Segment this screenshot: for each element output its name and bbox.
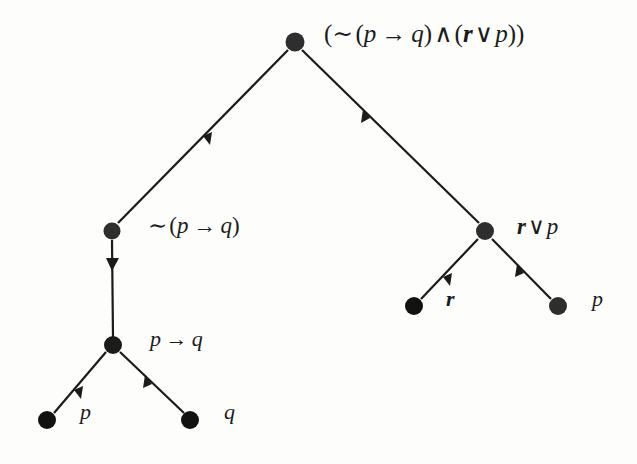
edge-root-to-disjunction [302, 50, 479, 223]
paren-close-outer: ) [516, 20, 524, 47]
label-root-formula: (∼ (p → q) ∧ (r ∨ p)) [324, 21, 524, 46]
atom-q-consequent: q [411, 20, 424, 47]
node-leaf-r[interactable] [405, 297, 423, 315]
edge-implication-to-leaf-q [120, 352, 184, 413]
label-not-implication: ∼ (p → q) [148, 214, 240, 237]
paren-open-implication: ( [355, 20, 363, 47]
paren-open-disjunction: ( [455, 20, 463, 47]
atom-p: p [177, 213, 189, 238]
label-disjunction: r ∨ p [517, 215, 558, 238]
node-leaf-p-left[interactable] [38, 411, 56, 429]
label-leaf-r: r [446, 288, 455, 310]
negation-operator: ∼ [332, 20, 353, 47]
atom-q: q [221, 213, 233, 238]
atom-p: p [150, 326, 161, 351]
node-not-implication[interactable] [104, 223, 121, 240]
label-leaf-p-left: p [80, 401, 91, 423]
paren-open: ( [169, 213, 177, 238]
disjunction-operator: ∨ [528, 214, 545, 239]
node-leaf-p-right[interactable] [549, 297, 567, 315]
negation-operator: ∼ [148, 213, 167, 238]
atom-p: p [547, 214, 559, 239]
label-leaf-q: q [224, 401, 235, 423]
paren-close: ) [232, 213, 240, 238]
label-leaf-p-right: p [592, 288, 603, 310]
implication-operator: → [381, 20, 406, 47]
parse-tree-figure: (∼ (p → q) ∧ (r ∨ p)) ∼ (p → q) r ∨ p p … [0, 0, 637, 464]
edge-root-to-not-implication [118, 50, 288, 223]
node-disjunction[interactable] [476, 222, 494, 240]
node-group [38, 33, 567, 430]
atom-q: q [192, 326, 203, 351]
atom-r: r [517, 214, 526, 239]
label-implication: p → q [150, 328, 203, 350]
atom-r: r [463, 20, 473, 47]
disjunction-operator: ∨ [475, 20, 493, 47]
atom-p-disjunct: p [495, 20, 508, 47]
arrowhead-not-implication-to-implication [106, 258, 119, 271]
implication-operator: → [165, 326, 187, 351]
node-implication[interactable] [104, 336, 122, 354]
edge-not-implication-to-implication [112, 240, 113, 337]
paren-close-disjunction: ) [508, 20, 516, 47]
paren-close-implication: ) [424, 20, 432, 47]
node-leaf-q[interactable] [181, 411, 199, 429]
edge-disjunction-to-leaf-p [492, 239, 551, 299]
atom-p-antecedent: p [364, 20, 377, 47]
node-root[interactable] [286, 33, 305, 52]
conjunction-operator: ∧ [434, 20, 452, 47]
implication-operator: → [193, 213, 216, 238]
